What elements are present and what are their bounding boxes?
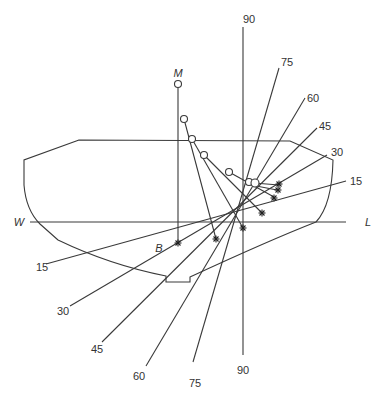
metacentre-point-60 [226,169,233,176]
label-angle-30-bottom: 30 [57,305,69,317]
label-angle-15-bottom: 15 [36,261,48,273]
buoyancy-point-45 [259,210,266,217]
buoyancy-point-90 [276,181,283,188]
label-angle-30-top: 30 [331,146,343,158]
stability-diagram: M B W L 90 75 60 45 30 15 15 30 45 60 75… [0,0,382,400]
metacentre-locus [175,81,260,188]
metacentre-point-90 [251,179,259,187]
label-angle-90-top: 90 [243,13,255,25]
label-angle-75-top: 75 [281,56,293,68]
label-angle-15-top: 15 [350,175,362,187]
label-waterline-right: L [365,216,371,228]
buoyancy-point-15 [213,236,220,243]
buoyancy-point-30 [240,225,247,232]
heel-line-60 [146,98,305,366]
metacentre-point-15 [181,116,188,123]
label-angle-60-top: 60 [307,92,319,104]
label-angle-90-bottom: 90 [237,364,249,376]
label-angle-75-bottom: 75 [189,377,201,389]
heel-line-30 [70,155,327,306]
buoyancy-point-60 [271,195,278,202]
label-angle-45-top: 45 [319,120,331,132]
m-b-link-30 [192,139,243,228]
metacentre-point-0 [175,81,182,88]
buoyancy-point-75 [275,187,282,194]
label-angle-45-bottom: 45 [91,343,103,355]
label-angle-60-bottom: 60 [133,370,145,382]
buoyancy-point-0 [175,240,182,247]
label-buoyancy: B [155,242,162,254]
metacentre-point-45 [201,152,208,159]
metacentre-point-30 [189,136,196,143]
label-metacentre: M [173,67,183,79]
label-waterline-left: W [14,216,26,228]
